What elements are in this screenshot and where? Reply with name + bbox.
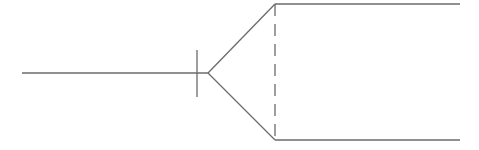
connector-diagram: [0, 0, 479, 150]
fork-lower-line: [208, 73, 275, 140]
fork-upper-line: [208, 4, 275, 73]
